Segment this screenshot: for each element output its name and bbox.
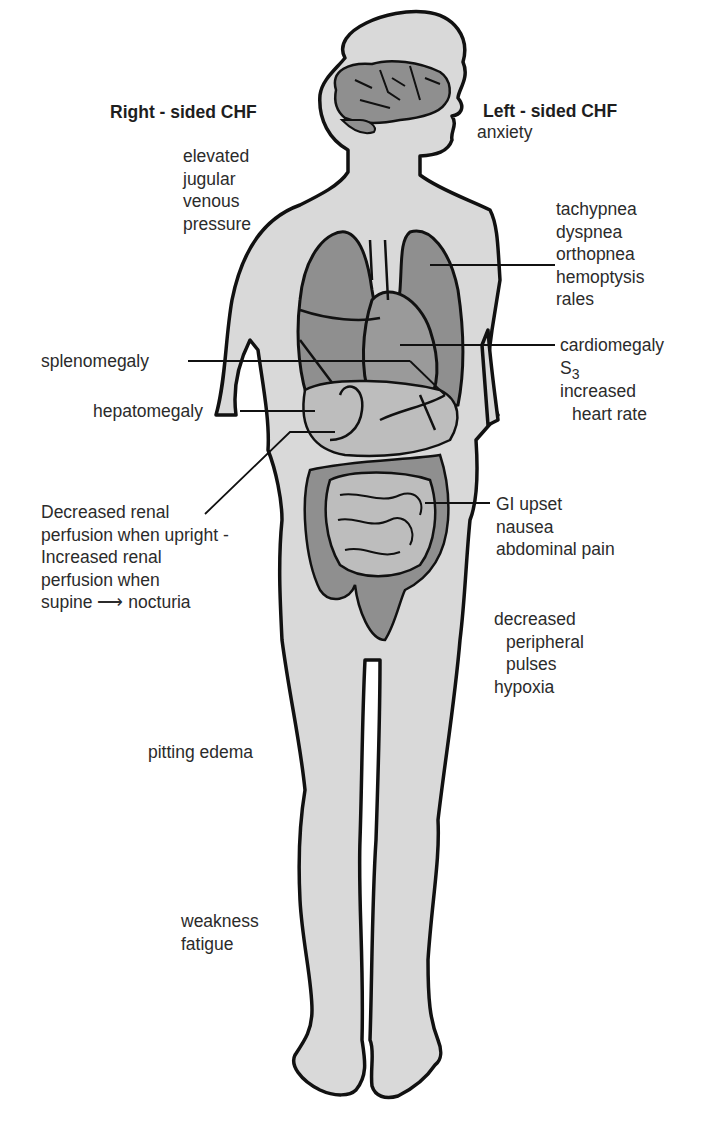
label-cardiac-symptoms: cardiomegaly S3 increased heart rate <box>560 334 664 425</box>
renal-nocturia-line: supine ⟶ nocturia <box>41 591 229 614</box>
label-anxiety: anxiety <box>477 121 532 144</box>
small-intestine <box>326 473 436 577</box>
heading-right-sided-chf: Right - sided CHF <box>110 102 257 123</box>
symptom-abdominal-pain: abdominal pain <box>496 538 615 561</box>
symptom-tachypnea: tachypnea <box>556 198 645 221</box>
symptom-hemoptysis: hemoptysis <box>556 266 645 289</box>
label-pitting-edema: pitting edema <box>148 741 253 764</box>
label-gi-symptoms: GI upset nausea abdominal pain <box>496 493 615 561</box>
heading-left-sided-chf: Left - sided CHF <box>483 101 617 122</box>
arrow-right-icon: ⟶ <box>97 592 123 612</box>
label-jvp: elevated jugular venous pressure <box>183 145 251 235</box>
symptom-nausea: nausea <box>496 516 615 539</box>
label-splenomegaly: splenomegaly <box>41 350 149 373</box>
label-renal: Decreased renal perfusion when upright -… <box>41 501 229 614</box>
symptom-gi-upset: GI upset <box>496 493 615 516</box>
abdominal-organs <box>303 381 457 456</box>
symptom-decreased: decreased <box>494 608 584 631</box>
label-peripheral-symptoms: decreased peripheral pulses hypoxia <box>494 608 584 698</box>
symptom-orthopnea: orthopnea <box>556 243 645 266</box>
symptom-increased: increased <box>560 380 664 403</box>
symptom-pulses: pulses <box>494 653 584 676</box>
symptom-cardiomegaly: cardiomegaly <box>560 334 664 357</box>
symptom-rales: rales <box>556 288 645 311</box>
symptom-peripheral: peripheral <box>494 631 584 654</box>
symptom-hypoxia: hypoxia <box>494 676 584 699</box>
label-respiratory-symptoms: tachypnea dyspnea orthopnea hemoptysis r… <box>556 198 645 311</box>
label-weakness-fatigue: weakness fatigue <box>181 910 259 955</box>
symptom-dyspnea: dyspnea <box>556 221 645 244</box>
symptom-s3: S3 <box>560 357 664 381</box>
symptom-heart-rate: heart rate <box>560 403 664 426</box>
label-hepatomegaly: hepatomegaly <box>93 400 203 423</box>
